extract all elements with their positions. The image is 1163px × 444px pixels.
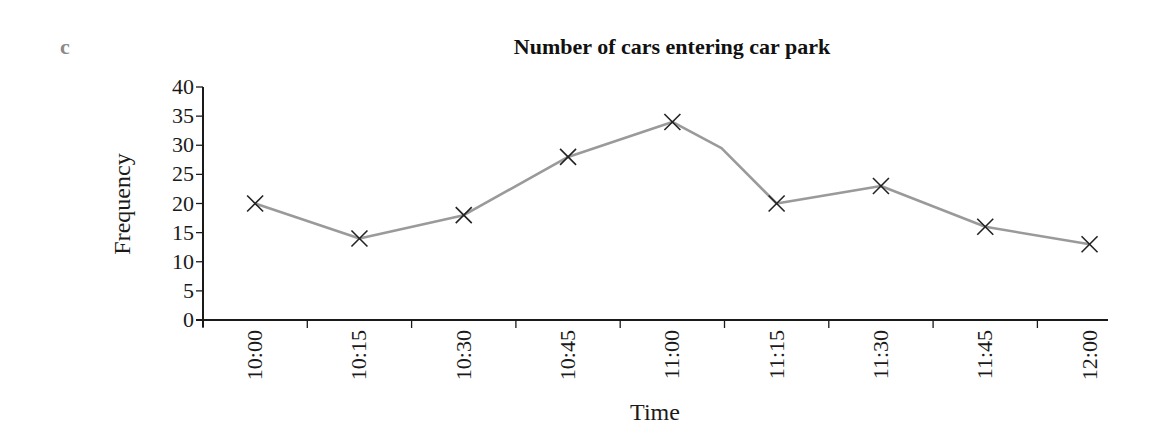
y-tick-label: 15	[172, 220, 194, 245]
part-label: c	[60, 34, 70, 59]
y-tick-label: 25	[172, 161, 194, 186]
y-tick-label: 20	[172, 191, 194, 216]
x-axis: 10:0010:1510:3010:4511:0011:1511:3011:45…	[196, 320, 1108, 380]
x-tick-label: 10:30	[451, 330, 476, 380]
x-marker-icon	[664, 114, 680, 130]
y-tick-label: 5	[183, 278, 194, 303]
y-axis: 0510152025303540	[172, 74, 203, 332]
line-chart: c Number of cars entering car park 05101…	[0, 0, 1163, 444]
x-tick-label: 11:00	[659, 330, 684, 379]
x-tick-label: 10:00	[242, 330, 267, 380]
x-marker-icon	[560, 149, 576, 165]
x-tick-label: 10:45	[555, 330, 580, 380]
chart-title: Number of cars entering car park	[514, 34, 831, 59]
x-tick-label: 11:30	[868, 330, 893, 379]
y-tick-label: 10	[172, 249, 194, 274]
x-marker-icon	[247, 196, 263, 212]
x-tick-label: 10:15	[346, 330, 371, 380]
y-axis-label: Frequency	[109, 153, 135, 254]
y-tick-label: 30	[172, 132, 194, 157]
y-tick-label: 0	[183, 307, 194, 332]
series-line	[255, 122, 1089, 244]
x-tick-label: 12:00	[1077, 330, 1102, 380]
data-series	[247, 114, 1097, 252]
x-tick-label: 11:45	[972, 330, 997, 379]
y-tick-label: 40	[172, 74, 194, 99]
y-tick-label: 35	[172, 103, 194, 128]
x-axis-label: Time	[630, 399, 680, 425]
x-tick-label: 11:15	[764, 330, 789, 379]
